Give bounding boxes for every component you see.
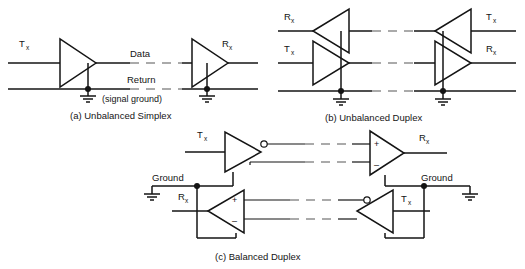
panel-b-right-ground-symbol xyxy=(435,91,451,105)
panel-c-top-left-tx-label: T xyxy=(197,129,203,140)
panel-c-bottom-left-rx-label-sub: x xyxy=(185,197,189,204)
panel-b-left-top-label-sub: x xyxy=(291,17,295,24)
panel-c-bottom-receiver-plus-label: + xyxy=(232,195,237,205)
panel-c-bottom-receiver-minus-label: – xyxy=(232,216,237,226)
panel-c-bottom-driver-inverting-bubble xyxy=(364,197,370,203)
panel-a-signal-ground-note: (signal ground) xyxy=(102,94,162,104)
panel-b-caption: (b) Unbalanced Duplex xyxy=(325,112,422,123)
panel-c-bottom-driver-triangle xyxy=(357,190,393,233)
panel-a-rx-label-sub: x xyxy=(229,44,233,51)
panel-a-tx-label: T xyxy=(19,38,25,49)
panel-b-right-top-label-sub: x xyxy=(493,17,497,24)
panel-c-top-right-rx-label: R xyxy=(419,132,426,143)
panel-b-right-bottom-label: R xyxy=(486,43,493,54)
panel-a-tx-label-sub: x xyxy=(26,44,30,51)
panel-c-right-ground-symbol xyxy=(462,194,478,200)
panel-a-unbalanced-simplex: T x R x Data Return (signal ground) (a) … xyxy=(8,38,258,121)
panel-b-right-top-label: T xyxy=(486,11,492,22)
panel-a-receiver-ground-symbol xyxy=(199,89,215,102)
panel-b-unbalanced-duplex: Rx right) : triangles point RIGHT --> xyxy=(278,9,516,123)
panel-b-left-bottom-label-sub: x xyxy=(291,49,295,56)
panel-c-left-ground-symbol xyxy=(144,194,160,200)
panel-b-left-ground-symbol xyxy=(333,91,349,105)
panel-a-driver-ground-symbol xyxy=(80,89,96,102)
panel-c-top-receiver-plus-label: + xyxy=(374,139,379,149)
panel-c-top-driver-inverting-bubble xyxy=(261,141,267,147)
panel-c-top-left-tx-label-sub: x xyxy=(204,135,208,142)
panel-c-caption: (c) Balanced Duplex xyxy=(215,251,301,262)
panel-c-top-right-rx-label-sub: x xyxy=(426,138,430,145)
panel-b-left-bottom-label: T xyxy=(284,43,290,54)
panel-c-right-ground-label: Ground xyxy=(421,172,453,183)
figure-canvas: T x R x Data Return (signal ground) (a) … xyxy=(0,0,525,269)
panel-b-right-bottom-label-sub: x xyxy=(493,49,497,56)
panel-c-bottom-left-rx-label: R xyxy=(178,191,185,202)
panel-c-left-ground-label: Ground xyxy=(152,172,184,183)
panel-c-top-receiver-minus-label: – xyxy=(374,160,379,170)
panel-a-data-label: Data xyxy=(130,48,151,59)
panel-c-top-driver-triangle xyxy=(225,132,261,172)
panel-a-caption: (a) Unbalanced Simplex xyxy=(70,110,172,121)
panel-c-bottom-right-tx-label-sub: x xyxy=(408,199,412,206)
panel-a-return-label: Return xyxy=(127,74,156,85)
panel-b-left-top-label: R xyxy=(284,11,291,22)
panel-c-bottom-receiver-triangle xyxy=(208,190,244,233)
panel-a-rx-label: R xyxy=(222,38,229,49)
panel-c-balanced-duplex: + – + – xyxy=(144,129,478,262)
panel-a-driver-triangle xyxy=(60,39,96,87)
panel-c-bottom-right-tx-label: T xyxy=(401,193,407,204)
